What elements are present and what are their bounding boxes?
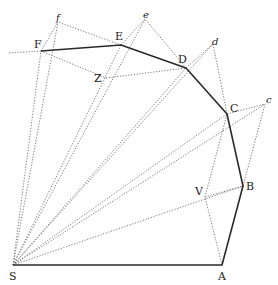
dotted-line-E-f: [58, 22, 121, 45]
dotted-line-S-c: [13, 104, 265, 265]
dotted-line-V-B: [205, 186, 243, 197]
dotted-line-A-V: [205, 197, 222, 265]
dotted-line-S-F: [13, 51, 41, 265]
polygon-outline: [13, 45, 243, 265]
point-label-B: B: [246, 180, 254, 193]
point-label-V: V: [194, 185, 204, 198]
point-label-E: E: [115, 30, 123, 43]
dotted-line-S-f: [13, 22, 58, 265]
point-label-c: c: [266, 94, 272, 105]
dotted-line-B-c: [243, 104, 265, 186]
point-label-f: f: [55, 12, 62, 23]
dotted-line-S-e: [13, 19, 145, 265]
point-label-A: A: [217, 270, 227, 283]
point-label-D: D: [178, 53, 187, 66]
point-label-S: S: [9, 270, 17, 283]
point-label-C: C: [230, 102, 238, 115]
point-label-e: e: [143, 9, 149, 20]
dotted-line-S-B: [13, 186, 243, 265]
dotted-line-F-W: [8, 51, 41, 53]
dotted-line-S-d: [13, 44, 213, 265]
dotted-construction-lines: [8, 19, 265, 265]
dotted-line-E-e: [121, 19, 145, 45]
geometric-diagram: SABVCcDdEeZFf: [0, 0, 278, 285]
dotted-line-D-d: [186, 44, 213, 68]
point-label-F: F: [34, 38, 42, 51]
dotted-line-S-D: [13, 68, 186, 265]
point-label-d: d: [212, 36, 218, 47]
dotted-line-S-E: [13, 45, 121, 265]
dotted-line-C-d: [213, 44, 227, 114]
point-label-Z: Z: [94, 72, 102, 85]
dotted-line-V-C: [205, 114, 227, 197]
